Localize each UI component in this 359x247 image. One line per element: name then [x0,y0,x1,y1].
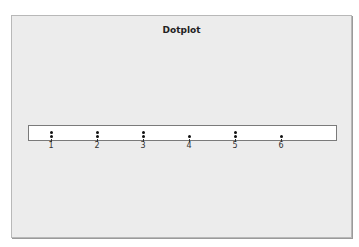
x-tick-label: 3 [136,141,150,150]
data-dot [142,135,145,138]
data-dot [142,131,145,134]
data-dot [234,135,237,138]
x-tick-label: 4 [182,141,196,150]
x-tick-label: 5 [228,141,242,150]
chart-frame: Dotplot 123456 [11,15,352,238]
data-dot [280,135,283,138]
data-dot [96,135,99,138]
x-tick-label: 6 [274,141,288,150]
x-tick-label: 1 [44,141,58,150]
x-tick-label: 2 [90,141,104,150]
data-dot [50,131,53,134]
data-dot [96,131,99,134]
chart-title: Dotplot [12,25,351,35]
data-dot [50,135,53,138]
data-dot [234,131,237,134]
data-dot [188,135,191,138]
dotplot-strip [28,125,337,141]
